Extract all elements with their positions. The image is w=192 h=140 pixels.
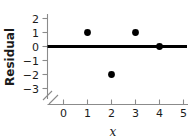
residual-plot: 2 1 0 −1 −2 −3 0 1 2 3 4 5 Residual x	[0, 0, 192, 140]
axis-break-slash-2	[49, 95, 58, 104]
x-tick-label-4: 4	[156, 107, 163, 120]
y-tick-label-0: 0	[32, 41, 39, 54]
x-tick-label-2: 2	[108, 107, 115, 120]
x-tick-label-0: 0	[60, 107, 67, 120]
y-tick-label-minus-1: −1	[23, 55, 39, 68]
x-tick-label-5: 5	[180, 107, 187, 120]
y-tick-label-2: 2	[32, 13, 39, 26]
x-tick-label-1: 1	[84, 107, 91, 120]
data-point	[156, 43, 163, 50]
x-axis-title: x	[110, 125, 117, 139]
data-point	[84, 29, 91, 36]
x-tick-label-3: 3	[132, 107, 139, 120]
data-point	[108, 71, 115, 78]
y-tick-label-1: 1	[32, 27, 39, 40]
chart-canvas: 2 1 0 −1 −2 −3 0 1 2 3 4 5 Residual x	[0, 0, 192, 140]
data-point	[132, 29, 139, 36]
y-axis-title: Residual	[3, 28, 17, 86]
y-tick-label-minus-2: −2	[23, 69, 39, 82]
y-tick-label-minus-3: −3	[23, 83, 39, 96]
